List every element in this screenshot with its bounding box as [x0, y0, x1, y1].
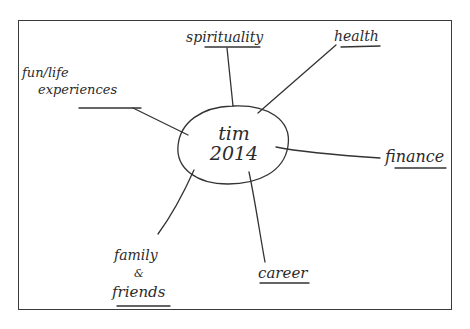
branch-career: career	[258, 266, 307, 281]
branch-family-amp: &	[134, 268, 144, 279]
mind-map-canvas: tim 2014 spirituality health fun/life ex…	[0, 0, 470, 329]
connector-career	[249, 172, 265, 262]
center-year: 2014	[196, 144, 272, 164]
branch-finance: finance	[385, 149, 444, 165]
branch-family-line1: family	[114, 248, 158, 262]
center-name: tim	[196, 124, 272, 144]
branch-family-line3: friends	[112, 285, 165, 300]
connector-fun-life	[133, 108, 188, 135]
connector-family	[158, 170, 194, 234]
connector-spirituality	[227, 48, 233, 106]
center-node: tim 2014	[196, 124, 272, 164]
underline-health	[341, 46, 380, 47]
branch-spirituality: spirituality	[186, 30, 263, 44]
connector-health	[258, 45, 336, 113]
branch-health: health	[334, 29, 379, 43]
branch-fun-life-line1: fun/life	[22, 66, 69, 79]
branch-fun-life-line2: experiences	[38, 83, 117, 96]
connector-finance	[276, 147, 380, 158]
